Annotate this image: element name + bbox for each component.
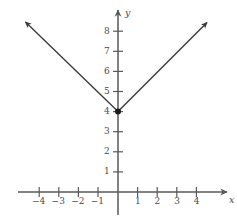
y-tick-label-2: 2: [104, 147, 110, 156]
y-tick-label-1: 1: [104, 167, 110, 176]
x-tick-label-neg2: −2: [71, 197, 84, 206]
y-tick-label-8: 8: [104, 27, 110, 36]
x-tick-label-1: 1: [135, 197, 141, 206]
vertex-point: [115, 109, 121, 115]
y-tick-label-6: 6: [104, 67, 110, 76]
y-tick-label-3: 3: [104, 127, 110, 136]
x-axis-label: x: [229, 195, 234, 205]
x-tick-label-4: 4: [194, 197, 200, 206]
y-tick-label-5: 5: [104, 87, 110, 96]
y-tick-label-4: 4: [104, 107, 110, 116]
x-tick-label-neg1: −1: [91, 197, 104, 206]
graph-figure: −4 −3 −2 −1 1 2 3 4 1 2 3 4 5 6 7 8 x y: [0, 0, 237, 224]
x-tick-label-3: 3: [174, 197, 180, 206]
y-tick-label-7: 7: [104, 47, 110, 56]
curve-right-branch: [118, 23, 207, 112]
y-axis-label: y: [125, 8, 130, 18]
x-tick-label-2: 2: [155, 197, 161, 206]
coordinate-plane: [0, 0, 237, 224]
x-tick-label-neg4: −4: [32, 197, 45, 206]
x-tick-label-neg3: −3: [52, 197, 65, 206]
